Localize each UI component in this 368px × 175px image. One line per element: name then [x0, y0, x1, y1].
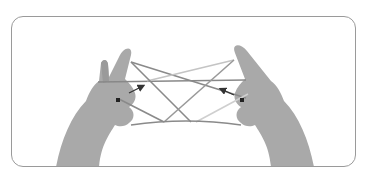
right-hand-icon [234, 45, 314, 166]
illustration-frame [11, 16, 356, 167]
left-hand-icon [56, 48, 136, 166]
string-figure-illustration [12, 17, 355, 166]
right-arrow-icon [221, 89, 234, 95]
right-marker-icon [240, 98, 244, 102]
left-marker-icon [116, 98, 120, 102]
